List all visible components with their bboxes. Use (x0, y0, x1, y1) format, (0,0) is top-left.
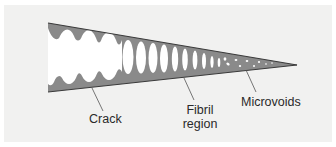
craze-diagram (0, 0, 336, 147)
fibril-region-label: Fibril region (180, 103, 220, 131)
microvoids-leader-line (246, 70, 256, 92)
fibril-label-line1: Fibril (180, 103, 220, 117)
crack-leader-line (92, 88, 103, 111)
microvoids-label: Microvoids (241, 95, 301, 109)
fibril-label-line2: region (180, 117, 220, 131)
crack-label: Crack (89, 112, 122, 126)
fibril-leader-line (184, 78, 194, 100)
